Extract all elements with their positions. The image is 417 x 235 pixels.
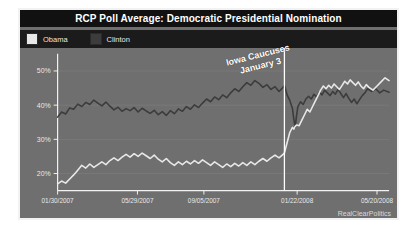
watermark-realclearpolitics: RealClearPolitics: [338, 210, 391, 217]
legend-label-obama: Obama: [43, 35, 68, 44]
legend-label-clinton: Clinton: [107, 35, 130, 44]
x-axis-tick-label: 09/05/2007: [188, 197, 221, 204]
series-line-clinton: [58, 81, 389, 128]
plot-svg: 20%30%40%50%01/30/200705/29/200709/05/20…: [20, 48, 397, 218]
rcp-poll-chart: RCP Poll Average: Democratic Presidentia…: [18, 8, 399, 220]
legend-item-clinton[interactable]: Clinton: [90, 33, 130, 45]
chart-legend: Obama Clinton: [20, 30, 397, 48]
y-axis-tick-label: 40%: [37, 102, 51, 109]
legend-item-obama[interactable]: Obama: [26, 33, 68, 45]
chart-title-bar: RCP Poll Average: Democratic Presidentia…: [20, 10, 397, 27]
legend-swatch-clinton: [90, 33, 102, 45]
x-axis-tick-label: 01/22/2008: [281, 197, 314, 204]
x-axis-tick-label: 05/20/2008: [361, 197, 394, 204]
y-axis-tick-label: 50%: [37, 68, 51, 75]
legend-swatch-obama: [26, 33, 38, 45]
chart-title: RCP Poll Average: Democratic Presidentia…: [75, 13, 342, 24]
plot-area: 20%30%40%50%01/30/200705/29/200709/05/20…: [20, 48, 397, 218]
y-axis-tick-label: 20%: [37, 170, 51, 177]
x-axis-tick-label: 01/30/2007: [42, 197, 75, 204]
y-axis-tick-label: 30%: [37, 136, 51, 143]
series-line-obama: [58, 78, 389, 184]
x-axis-tick-label: 05/29/2007: [121, 197, 154, 204]
